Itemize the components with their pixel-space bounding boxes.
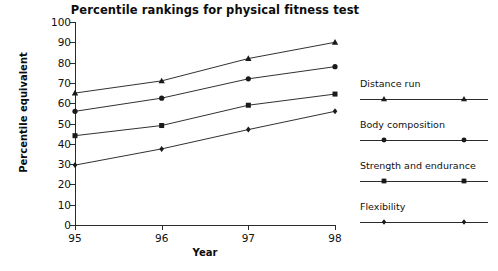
y-tick-label: 30 (58, 159, 71, 170)
x-tick (248, 225, 249, 230)
chart-title: Percentile rankings for physical fitness… (70, 3, 360, 17)
data-series-layer (75, 22, 335, 225)
circle-marker (246, 76, 251, 81)
circle-marker (332, 64, 337, 69)
y-tick-label: 90 (58, 37, 71, 48)
x-tick-label: 97 (242, 232, 255, 244)
square-marker (73, 133, 78, 138)
y-tick-label: 80 (58, 57, 71, 68)
circle-marker (462, 138, 467, 143)
y-tick-label: 60 (58, 98, 71, 109)
legend-item-body-composition[interactable]: Body composition (360, 119, 496, 160)
legend-label: Body composition (360, 119, 496, 131)
plot-area: 0102030405060708090100 95969798 (75, 22, 335, 225)
square-marker (462, 179, 467, 184)
circle-marker (72, 109, 77, 114)
diamond-marker (333, 108, 338, 114)
square-marker (246, 103, 251, 108)
y-axis-title: Percentile equivalent (18, 43, 29, 183)
triangle-marker (381, 96, 387, 101)
circle-marker (382, 138, 387, 143)
diamond-marker (382, 219, 386, 225)
series-strength-and-endurance (73, 92, 338, 139)
x-axis-line (75, 225, 335, 226)
diamond-marker (159, 146, 164, 152)
square-marker (382, 179, 387, 184)
x-tick (75, 225, 76, 230)
x-axis-title: Year (75, 247, 335, 258)
legend-label: Strength and endurance (360, 160, 496, 172)
x-tick (162, 225, 163, 230)
triangle-marker (461, 96, 467, 101)
x-tick (335, 225, 336, 230)
series-line (75, 42, 335, 93)
legend-sample-line (360, 217, 488, 227)
square-marker (159, 123, 164, 128)
series-distance-run (72, 39, 338, 95)
series-line (75, 94, 335, 136)
y-tick-label: 100 (51, 17, 71, 28)
diamond-marker (73, 162, 78, 168)
diamond-marker (462, 219, 466, 225)
x-tick-label: 95 (68, 232, 81, 244)
y-tick-label: 50 (58, 118, 71, 129)
legend-sample-line (360, 94, 488, 104)
y-tick-label: 40 (58, 139, 71, 150)
legend-sample-line (360, 135, 488, 145)
legend-item-strength-and-endurance[interactable]: Strength and endurance (360, 160, 496, 201)
x-tick-label: 98 (328, 232, 341, 244)
legend-item-flexibility[interactable]: Flexibility (360, 201, 496, 242)
chart-figure: Percentile rankings for physical fitness… (0, 0, 498, 271)
legend-sample-line (360, 176, 488, 186)
y-tick-label: 0 (64, 220, 71, 231)
legend-label: Distance run (360, 78, 496, 90)
series-line (75, 111, 335, 165)
triangle-marker (332, 39, 338, 45)
series-flexibility (73, 108, 338, 168)
legend-label: Flexibility (360, 201, 496, 213)
legend-item-distance-run[interactable]: Distance run (360, 78, 496, 119)
square-marker (333, 92, 338, 97)
y-tick-label: 20 (58, 179, 71, 190)
y-tick-label: 70 (58, 78, 71, 89)
x-tick-label: 96 (155, 232, 168, 244)
circle-marker (159, 96, 164, 101)
y-tick-label: 10 (58, 199, 71, 210)
chart-legend: Distance runBody compositionStrength and… (360, 78, 496, 242)
series-body-composition (72, 64, 337, 114)
series-line (75, 67, 335, 112)
diamond-marker (246, 127, 251, 133)
